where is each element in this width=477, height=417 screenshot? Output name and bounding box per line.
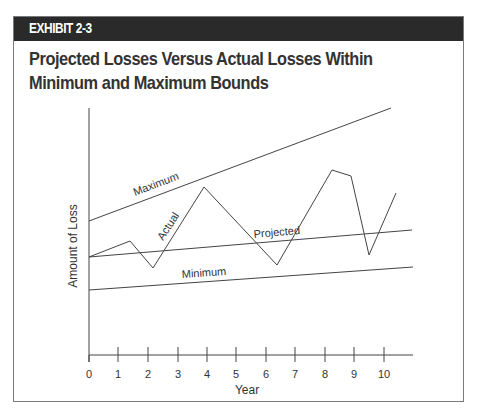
x-tick-label: 9 (351, 368, 357, 380)
x-tick-label: 4 (204, 368, 210, 380)
label-minimum: Minimum (181, 265, 226, 280)
series-maximum (89, 108, 391, 221)
chart-plot: 012345678910 Maximum Actual Projected Mi… (0, 0, 477, 417)
x-tick-label: 1 (115, 368, 121, 380)
series-projected (89, 230, 412, 257)
series-minimum (89, 267, 413, 290)
x-tick-label: 8 (322, 368, 328, 380)
x-tick-label: 7 (292, 368, 298, 380)
x-tick-labels: 012345678910 (86, 368, 390, 380)
x-tick-label: 0 (86, 368, 92, 380)
x-axis-label: Year (235, 383, 259, 397)
y-axis-label: Amount of Loss (66, 204, 80, 287)
label-maximum: Maximum (131, 170, 180, 198)
x-tick-label: 2 (145, 368, 151, 380)
x-tick-label: 3 (175, 368, 181, 380)
label-actual: Actual (155, 210, 182, 242)
x-tick-label: 6 (263, 368, 269, 380)
x-tick-label: 10 (378, 368, 390, 380)
x-tick-label: 5 (233, 368, 239, 380)
